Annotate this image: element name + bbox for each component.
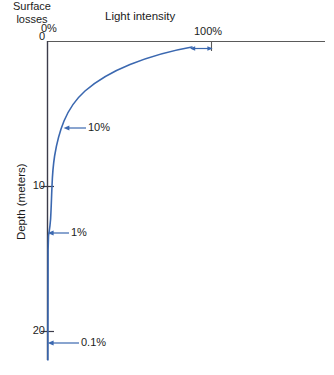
y-axis-title: Depth (meters) xyxy=(16,157,28,247)
light-attenuation-curve xyxy=(48,47,192,360)
one-percent-arrow xyxy=(48,231,69,236)
y-tick-label-10: 10 xyxy=(23,180,45,191)
x-axis-label-zero-percent: 0% xyxy=(41,23,57,34)
light-intensity-depth-chart: Light intensity Depth (meters) 0 10 20 0… xyxy=(0,0,334,375)
chart-graphics-layer xyxy=(0,0,334,375)
annotation-label-10-percent: 10% xyxy=(88,122,110,133)
ten-percent-arrow xyxy=(64,126,86,131)
annotation-label-1-percent: 1% xyxy=(71,227,87,238)
x-axis-label-hundred-percent: 100% xyxy=(194,26,222,37)
y-tick-label-20: 20 xyxy=(23,325,45,336)
surface-losses-line-1: Surface xyxy=(0,0,64,13)
chart-title: Light intensity xyxy=(105,11,175,23)
tenth-percent-arrow xyxy=(48,341,79,346)
surface-losses-arrow xyxy=(190,46,213,50)
annotation-label-0-1-percent: 0.1% xyxy=(81,337,106,348)
